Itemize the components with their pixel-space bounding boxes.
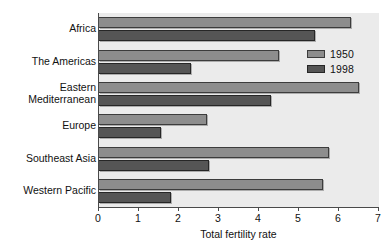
category-label-eastern-mediterranean: EasternMediterranean: [0, 82, 96, 105]
x-axis-title: Total fertility rate: [98, 228, 379, 240]
bar-1950-the-americas: [99, 50, 279, 61]
bar-1950-western-pacific: [99, 179, 323, 190]
bar-1998-western-pacific: [99, 192, 171, 203]
category-label-southeast-asia: Southeast Asia: [0, 153, 96, 165]
x-tick-5: [298, 207, 299, 211]
x-tick-label-7: 7: [367, 212, 389, 224]
category-label-africa: Africa: [0, 23, 96, 35]
x-tick-label-4: 4: [247, 212, 269, 224]
bars-layer: [99, 13, 379, 207]
x-tick-1: [138, 207, 139, 211]
x-tick-label-3: 3: [207, 212, 229, 224]
legend-item-1998: 1998: [307, 62, 354, 75]
legend-swatch-1950-icon: [307, 50, 325, 58]
bar-1950-europe: [99, 114, 207, 125]
plot-area: [98, 13, 379, 207]
category-label-the-americas: The Americas: [0, 56, 96, 68]
x-tick-label-1: 1: [127, 212, 149, 224]
category-label-line: The Americas: [0, 56, 96, 68]
fertility-rate-bar-chart: AfricaThe AmericasEasternMediterraneanEu…: [0, 0, 391, 249]
x-tick-label-0: 0: [87, 212, 109, 224]
bar-1998-southeast-asia: [99, 160, 209, 171]
bar-1950-southeast-asia: [99, 147, 329, 158]
bar-1998-the-americas: [99, 63, 191, 74]
category-label-western-pacific: Western Pacific: [0, 185, 96, 197]
legend-label-1998: 1998: [330, 63, 354, 75]
category-label-line: Europe: [0, 120, 96, 132]
bar-1950-africa: [99, 17, 351, 28]
category-label-europe: Europe: [0, 120, 96, 132]
x-tick-2: [178, 207, 179, 211]
bar-1998-africa: [99, 30, 315, 41]
x-tick-3: [218, 207, 219, 211]
x-tick-7: [378, 207, 379, 211]
legend: 1950 1998: [307, 47, 354, 77]
x-tick-6: [338, 207, 339, 211]
category-label-line: Mediterranean: [0, 94, 96, 106]
category-label-line: Africa: [0, 23, 96, 35]
x-tick-0: [98, 207, 99, 211]
legend-item-1950: 1950: [307, 47, 354, 60]
legend-swatch-1998-icon: [307, 65, 325, 73]
x-axis-line: [98, 207, 379, 208]
category-label-line: Southeast Asia: [0, 153, 96, 165]
bar-1950-eastern-mediterranean: [99, 82, 359, 93]
bar-1998-eastern-mediterranean: [99, 95, 271, 106]
category-label-line: Western Pacific: [0, 185, 96, 197]
legend-label-1950: 1950: [330, 48, 354, 60]
x-tick-label-6: 6: [327, 212, 349, 224]
x-tick-label-5: 5: [287, 212, 309, 224]
bar-1998-europe: [99, 127, 161, 138]
x-tick-4: [258, 207, 259, 211]
x-tick-label-2: 2: [167, 212, 189, 224]
